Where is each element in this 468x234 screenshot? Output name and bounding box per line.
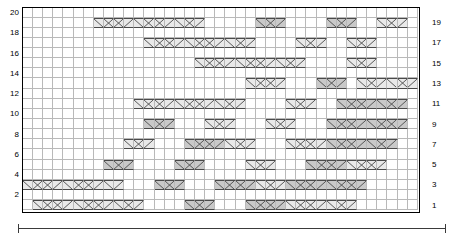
chart-cell-cable bbox=[33, 180, 43, 190]
chart-cell-cable bbox=[205, 58, 215, 68]
chart-cell bbox=[124, 68, 134, 78]
chart-cell bbox=[124, 129, 134, 139]
chart-cell bbox=[276, 160, 286, 170]
chart-cell-cable bbox=[23, 180, 33, 190]
chart-cell bbox=[357, 200, 367, 210]
chart-cell bbox=[256, 48, 266, 58]
chart-cell bbox=[134, 109, 144, 119]
chart-cell bbox=[165, 8, 175, 18]
chart-cell bbox=[144, 180, 154, 190]
chart-cell bbox=[53, 78, 63, 88]
chart-cell bbox=[175, 109, 185, 119]
chart-cell-cable bbox=[256, 78, 266, 88]
chart-cell bbox=[23, 78, 33, 88]
chart-cell bbox=[367, 89, 377, 99]
chart-cell-cable bbox=[317, 180, 327, 190]
chart-cell-cable bbox=[195, 58, 205, 68]
chart-cell bbox=[408, 139, 418, 149]
chart-cell bbox=[387, 8, 397, 18]
chart-cell bbox=[84, 28, 94, 38]
chart-cell bbox=[33, 48, 43, 58]
chart-cell bbox=[286, 18, 296, 28]
chart-cell bbox=[124, 170, 134, 180]
chart-cell bbox=[286, 38, 296, 48]
chart-cell bbox=[104, 99, 114, 109]
chart-cell bbox=[377, 170, 387, 180]
chart-cell-cable bbox=[246, 139, 256, 149]
row-label-left: 8 bbox=[15, 130, 19, 140]
row-numbers-left: 2018161412108642 bbox=[0, 0, 22, 234]
chart-cell bbox=[327, 89, 337, 99]
chart-cell bbox=[327, 28, 337, 38]
chart-cell bbox=[185, 68, 195, 78]
chart-cell bbox=[286, 89, 296, 99]
chart-cell-cable bbox=[327, 180, 337, 190]
chart-cell bbox=[124, 38, 134, 48]
chart-cell bbox=[296, 68, 306, 78]
row-label-right: 13 bbox=[432, 79, 441, 89]
chart-cell bbox=[165, 170, 175, 180]
chart-cell bbox=[175, 58, 185, 68]
chart-cell bbox=[398, 180, 408, 190]
chart-cell-cable bbox=[63, 180, 73, 190]
chart-cell-cable bbox=[94, 18, 104, 28]
chart-cell bbox=[276, 170, 286, 180]
row-label-left: 14 bbox=[10, 69, 19, 79]
chart-cell bbox=[74, 119, 84, 129]
chart-cell bbox=[195, 28, 205, 38]
chart-cell bbox=[387, 149, 397, 159]
chart-cell-cable bbox=[357, 99, 367, 109]
chart-cell bbox=[205, 89, 215, 99]
chart-cell bbox=[387, 28, 397, 38]
chart-cell bbox=[205, 28, 215, 38]
chart-cell-cable bbox=[195, 139, 205, 149]
chart-cell bbox=[144, 28, 154, 38]
chart-cell bbox=[43, 170, 53, 180]
chart-cell bbox=[195, 48, 205, 58]
chart-cell bbox=[63, 139, 73, 149]
chart-cell bbox=[185, 149, 195, 159]
chart-cell bbox=[215, 48, 225, 58]
chart-cell bbox=[175, 78, 185, 88]
row-label-right: 17 bbox=[432, 38, 441, 48]
chart-cell bbox=[387, 190, 397, 200]
chart-cell bbox=[387, 170, 397, 180]
chart-cell bbox=[144, 190, 154, 200]
chart-cell bbox=[266, 8, 276, 18]
chart-cell-cable bbox=[225, 180, 235, 190]
row-numbers-right: 191715131197531 bbox=[420, 0, 468, 234]
chart-cell bbox=[104, 28, 114, 38]
chart-cell bbox=[23, 58, 33, 68]
chart-cell bbox=[367, 149, 377, 159]
chart-cell-cable bbox=[236, 139, 246, 149]
chart-cell-cable bbox=[104, 200, 114, 210]
chart-cell-cable bbox=[175, 160, 185, 170]
chart-cell bbox=[367, 109, 377, 119]
chart-cell bbox=[225, 190, 235, 200]
chart-cell bbox=[185, 180, 195, 190]
chart-cell bbox=[63, 48, 73, 58]
chart-cell bbox=[286, 129, 296, 139]
chart-cell bbox=[134, 58, 144, 68]
chart-cell bbox=[408, 38, 418, 48]
chart-cell bbox=[63, 28, 73, 38]
chart-cell bbox=[215, 28, 225, 38]
chart-cell bbox=[124, 78, 134, 88]
chart-cell bbox=[144, 48, 154, 58]
chart-cell bbox=[155, 129, 165, 139]
chart-cell-cable bbox=[347, 58, 357, 68]
chart-cell bbox=[286, 160, 296, 170]
chart-cell bbox=[398, 170, 408, 180]
chart-cell bbox=[195, 119, 205, 129]
chart-cell bbox=[357, 149, 367, 159]
chart-cell bbox=[175, 200, 185, 210]
chart-cell bbox=[63, 129, 73, 139]
chart-cell bbox=[124, 109, 134, 119]
chart-cell bbox=[104, 58, 114, 68]
chart-cell bbox=[165, 129, 175, 139]
chart-cell bbox=[276, 89, 286, 99]
chart-cell bbox=[357, 170, 367, 180]
chart-cell bbox=[124, 58, 134, 68]
chart-cell bbox=[266, 89, 276, 99]
chart-cell bbox=[286, 109, 296, 119]
